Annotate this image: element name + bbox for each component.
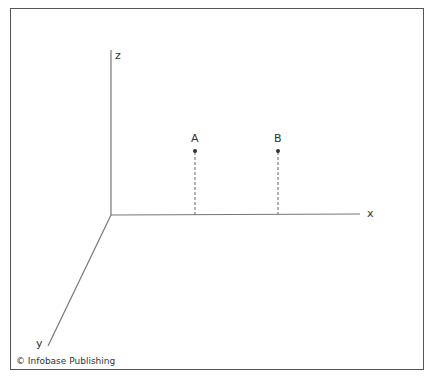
copyright-credit: © Infobase Publishing — [16, 356, 115, 366]
point-b-marker — [276, 149, 280, 153]
z-axis-label: z — [115, 50, 121, 61]
point-a-label: A — [191, 133, 199, 144]
axes-diagram — [0, 0, 434, 380]
point-a-marker — [193, 149, 197, 153]
y-axis-label: y — [36, 338, 43, 349]
x-axis-label: x — [367, 208, 374, 219]
point-b-label: B — [274, 133, 282, 144]
x-axis — [111, 214, 360, 215]
y-axis — [48, 215, 111, 346]
